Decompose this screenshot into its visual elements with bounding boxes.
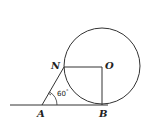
label-a: A (36, 108, 45, 119)
geometry-diagram: N O A B 60° (0, 0, 150, 127)
label-o: O (105, 60, 114, 71)
label-b: B (98, 108, 107, 119)
angle-label: 60° (57, 88, 69, 98)
angle-arc (50, 92, 58, 105)
label-n: N (50, 60, 61, 71)
segment-an (42, 67, 64, 105)
